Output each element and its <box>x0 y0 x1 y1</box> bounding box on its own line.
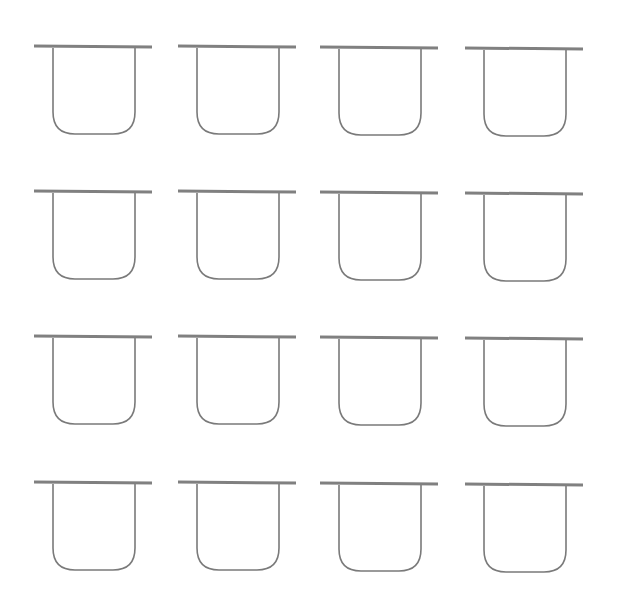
bar-line <box>178 482 296 483</box>
u-curve <box>484 50 566 136</box>
u-curve <box>53 484 135 570</box>
u-curve <box>197 484 279 570</box>
bar-line <box>178 191 296 192</box>
u-curve <box>339 49 421 135</box>
cup-shape-r2-c4 <box>465 193 583 281</box>
u-curve <box>339 339 421 425</box>
cup-shape-r1-c4 <box>465 48 583 136</box>
u-curve <box>197 48 279 134</box>
cup-shape-r2-c2 <box>178 191 296 279</box>
bar-line <box>465 484 583 485</box>
bar-line <box>178 46 296 47</box>
cup-shape-r3-c3 <box>320 337 438 425</box>
u-curve <box>339 194 421 280</box>
diagram-canvas <box>0 0 617 606</box>
bar-line <box>465 193 583 194</box>
cup-shape-r3-c4 <box>465 338 583 426</box>
cup-shape-r4-c3 <box>320 483 438 571</box>
bar-line <box>465 48 583 49</box>
bar-line <box>34 336 152 337</box>
bar-line <box>320 483 438 484</box>
u-curve <box>484 195 566 281</box>
cup-shape-r1-c3 <box>320 47 438 135</box>
cup-shape-r4-c2 <box>178 482 296 570</box>
u-curve <box>484 340 566 426</box>
u-curve <box>197 338 279 424</box>
bar-line <box>34 191 152 192</box>
bar-line <box>34 482 152 483</box>
bar-line <box>320 47 438 48</box>
cup-shape-r2-c3 <box>320 192 438 280</box>
u-curve <box>53 193 135 279</box>
bar-line <box>320 337 438 338</box>
bar-line <box>320 192 438 193</box>
cup-shape-r1-c2 <box>178 46 296 134</box>
u-curve <box>53 338 135 424</box>
u-curve <box>484 486 566 572</box>
cup-shape-r3-c1 <box>34 336 152 424</box>
bar-line <box>465 338 583 339</box>
u-curve <box>53 48 135 134</box>
cup-shape-r4-c1 <box>34 482 152 570</box>
u-curve <box>197 193 279 279</box>
cup-shape-r2-c1 <box>34 191 152 279</box>
bar-line <box>34 46 152 47</box>
cup-shape-r3-c2 <box>178 336 296 424</box>
bar-line <box>178 336 296 337</box>
u-curve <box>339 485 421 571</box>
cup-shape-r1-c1 <box>34 46 152 134</box>
cup-shape-r4-c4 <box>465 484 583 572</box>
